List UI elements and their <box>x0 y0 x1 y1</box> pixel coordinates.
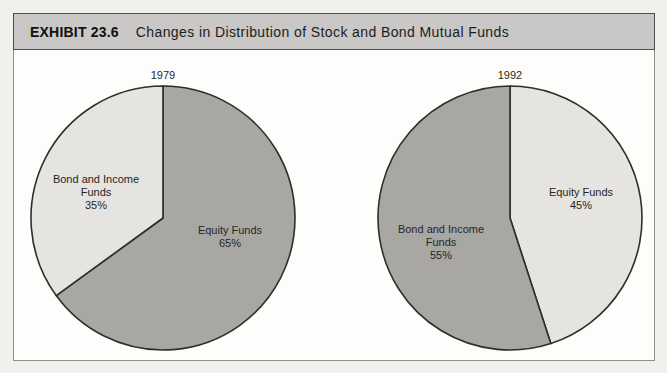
pie-chart-1979 <box>29 84 297 352</box>
pie-1979-equity-label: Equity Funds 65% <box>198 224 262 250</box>
exhibit-body: 1979 1992 Bond and Income Funds 35% Equi… <box>13 50 655 361</box>
pie-chart-1992 <box>376 84 644 352</box>
pie-1979-year-label: 1979 <box>29 69 297 82</box>
page-background: EXHIBIT 23.6 Changes in Distribution of … <box>0 0 667 373</box>
slice-label-line: Bond and Income <box>398 223 484 236</box>
pie-1979-bond-label: Bond and Income Funds 35% <box>53 173 139 212</box>
slice-label-line: Funds <box>53 186 139 199</box>
slice-label-line: Equity Funds <box>549 186 613 199</box>
slice-label-line: 65% <box>198 237 262 250</box>
slice-label-line: 35% <box>53 199 139 212</box>
pie-1992-bond-label: Bond and Income Funds 55% <box>398 223 484 262</box>
exhibit-header: EXHIBIT 23.6 Changes in Distribution of … <box>13 13 655 50</box>
slice-label-line: Funds <box>398 236 484 249</box>
slice-label-line: 55% <box>398 249 484 262</box>
exhibit-frame: EXHIBIT 23.6 Changes in Distribution of … <box>13 13 655 361</box>
pie-1992-equity-label: Equity Funds 45% <box>549 186 613 212</box>
slice-label-line: 45% <box>549 199 613 212</box>
slice-label-line: Bond and Income <box>53 173 139 186</box>
pie-1992-year-label: 1992 <box>376 69 644 82</box>
slice-label-line: Equity Funds <box>198 224 262 237</box>
exhibit-title: Changes in Distribution of Stock and Bon… <box>136 24 509 40</box>
exhibit-number: EXHIBIT 23.6 <box>30 24 119 40</box>
